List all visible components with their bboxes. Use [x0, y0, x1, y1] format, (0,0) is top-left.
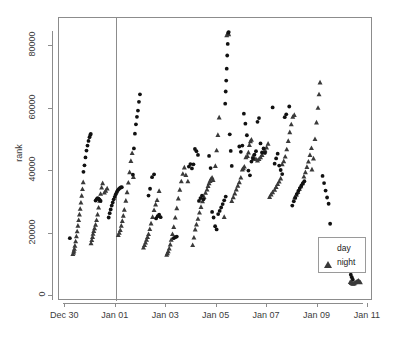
x-tick: [115, 303, 116, 307]
x-tick-label: Jan 01: [101, 310, 128, 320]
y-tick-label: 20000: [0, 227, 44, 237]
x-tick-label: Jan 03: [152, 310, 179, 320]
legend-item-night: night: [324, 256, 355, 268]
y-axis-line: [52, 31, 53, 300]
y-tick: [48, 233, 52, 234]
x-tick: [216, 303, 217, 307]
y-tick-label: 60000: [0, 102, 44, 112]
x-tick-label: Jan 07: [253, 310, 280, 320]
x-tick: [317, 303, 318, 307]
x-tick-label: Jan 05: [202, 310, 229, 320]
y-tick: [48, 295, 52, 296]
x-axis-line: [63, 303, 363, 304]
y-tick: [48, 45, 52, 46]
y-tick-label: 0: [0, 289, 44, 299]
y-tick: [48, 108, 52, 109]
x-tick-label: Dec 30: [50, 310, 79, 320]
plot-area: day night: [58, 17, 372, 300]
x-tick: [165, 303, 166, 307]
triangle-marker-icon: [324, 244, 332, 252]
legend-item-day: day: [324, 242, 351, 254]
legend-label-day: day: [337, 244, 351, 252]
chart-root: rank Dec 30Jan 01Jan 03Jan 05Jan 07Jan 0…: [0, 0, 396, 342]
x-tick-label: Jan 09: [303, 310, 330, 320]
legend: day night: [318, 237, 366, 273]
legend-label-night: night: [337, 258, 355, 266]
y-tick-label: 40000: [0, 164, 44, 174]
x-tick: [367, 303, 368, 307]
y-tick: [48, 170, 52, 171]
x-tick: [64, 303, 65, 307]
circle-marker-icon: [324, 258, 332, 266]
y-axis-title: rank: [14, 144, 24, 162]
x-tick: [266, 303, 267, 307]
y-tick-label: 80000: [0, 39, 44, 49]
x-tick-label: Jan 11: [354, 310, 380, 320]
